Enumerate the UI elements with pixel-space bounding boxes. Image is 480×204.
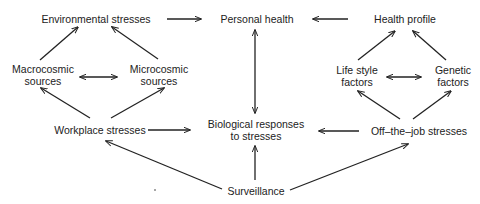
arrow-offjob-to-genetic [413, 91, 451, 119]
arrow-surveillance-to-offjob [290, 144, 408, 190]
arrow-workplace-to-macrocosmic [41, 88, 90, 118]
node-environmental-stresses: Environmental stresses [41, 13, 150, 25]
node-label-line2: to stresses [208, 130, 304, 142]
node-microcosmic-sources: Microcosmic sources [130, 63, 188, 87]
scan-artifact-dot [154, 189, 156, 191]
node-surveillance: Surveillance [227, 185, 284, 197]
node-label-line2: sources [12, 75, 74, 87]
node-label-line1: Biological responses [208, 118, 304, 130]
arrow-genetic-to-health-profile [413, 31, 446, 60]
arrow-offjob-to-lifestyle [358, 91, 400, 119]
node-label-line2: sources [130, 75, 188, 87]
node-label-line1: Life style [336, 64, 377, 76]
node-label: Environmental stresses [41, 13, 150, 25]
node-biological-responses: Biological responses to stresses [208, 118, 304, 142]
node-workplace-stresses: Workplace stresses [54, 124, 145, 136]
node-personal-health: Personal health [221, 13, 294, 25]
node-label: Off–the–job stresses [371, 125, 467, 137]
node-label: Health profile [374, 13, 436, 25]
arrow-workplace-to-microcosmic [111, 88, 164, 118]
node-genetic-factors: Genetic factors [435, 64, 471, 88]
node-label-line2: factors [435, 76, 471, 88]
node-label: Surveillance [227, 185, 284, 197]
arrow-lifestyle-to-health-profile [358, 31, 395, 60]
node-off-the-job-stresses: Off–the–job stresses [371, 125, 467, 137]
arrow-surveillance-to-workplace [106, 141, 222, 189]
arrow-macrocosmic-to-environmental [40, 27, 78, 60]
node-macrocosmic-sources: Macrocosmic sources [12, 63, 74, 87]
node-label-line1: Macrocosmic [12, 63, 74, 75]
node-label-line2: factors [336, 76, 377, 88]
node-life-style-factors: Life style factors [336, 64, 377, 88]
node-label: Workplace stresses [54, 124, 145, 136]
diagram-arrows [0, 0, 480, 204]
arrow-microcosmic-to-environmental [112, 27, 158, 59]
node-label: Personal health [221, 13, 294, 25]
node-health-profile: Health profile [374, 13, 436, 25]
node-label-line1: Microcosmic [130, 63, 188, 75]
stress-health-diagram: Environmental stresses Personal health H… [0, 0, 480, 204]
node-label-line1: Genetic [435, 64, 471, 76]
